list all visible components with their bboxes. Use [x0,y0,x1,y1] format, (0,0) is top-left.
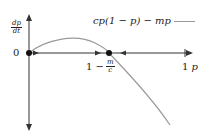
equilibrium-denominator: c [108,67,112,74]
y-axis-label: dp dt [11,19,22,35]
x-axis-label: p [192,61,198,72]
legend-line-swatch [174,21,195,22]
x-tick-label: 1 p [182,62,198,72]
y-axis-down-arrow-icon [26,124,32,131]
origin-label: 0 [13,48,19,58]
legend-text: cp(1 − p) − mp [93,16,171,26]
flow-left-arrow-icon [120,51,126,56]
y-axis-up-arrow-icon [26,14,32,21]
y-label-denominator: dt [13,28,20,35]
equilibrium-label: 1 − m c [86,59,115,75]
legend: cp(1 − p) − mp [93,16,195,26]
flow-right-arrow-icon [33,51,39,56]
stable-equilibrium-dot [106,50,112,56]
origin-equilibrium-dot [26,50,32,56]
equilibrium-prefix: 1 − [86,62,104,72]
x-axis-arrow-icon [186,50,193,56]
y-axis [26,14,32,131]
rate-curve [29,38,170,125]
flow-right-arrow-icon [95,51,101,56]
x-tick-one-label: 1 [182,61,188,72]
